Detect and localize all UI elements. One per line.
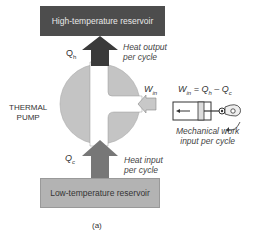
qc-label: Qc [65, 153, 75, 165]
figure-caption: (a) [92, 221, 102, 230]
heat-input-arrow [82, 140, 118, 178]
high-temperature-reservoir: High-temperature reservoir [40, 6, 165, 36]
heat-input-text: Heat input per cycle [124, 155, 163, 175]
heat-output-arrow [82, 36, 118, 66]
low-temperature-reservoir: Low-temperature reservoir [40, 178, 160, 208]
win-label: Win [144, 84, 157, 96]
work-equation: Win = Qh – Qc [178, 84, 232, 96]
piston-head [198, 102, 204, 120]
mechanical-work-text: Mechanical work input per cycle [176, 126, 239, 146]
qh-label: Qh [66, 48, 76, 60]
thermal-pump-label: THERMAL PUMP [9, 103, 47, 123]
high-reservoir-label: High-temperature reservoir [52, 16, 154, 26]
heat-output-text: Heat output per cycle [123, 42, 167, 62]
low-reservoir-label: Low-temperature reservoir [50, 188, 150, 198]
